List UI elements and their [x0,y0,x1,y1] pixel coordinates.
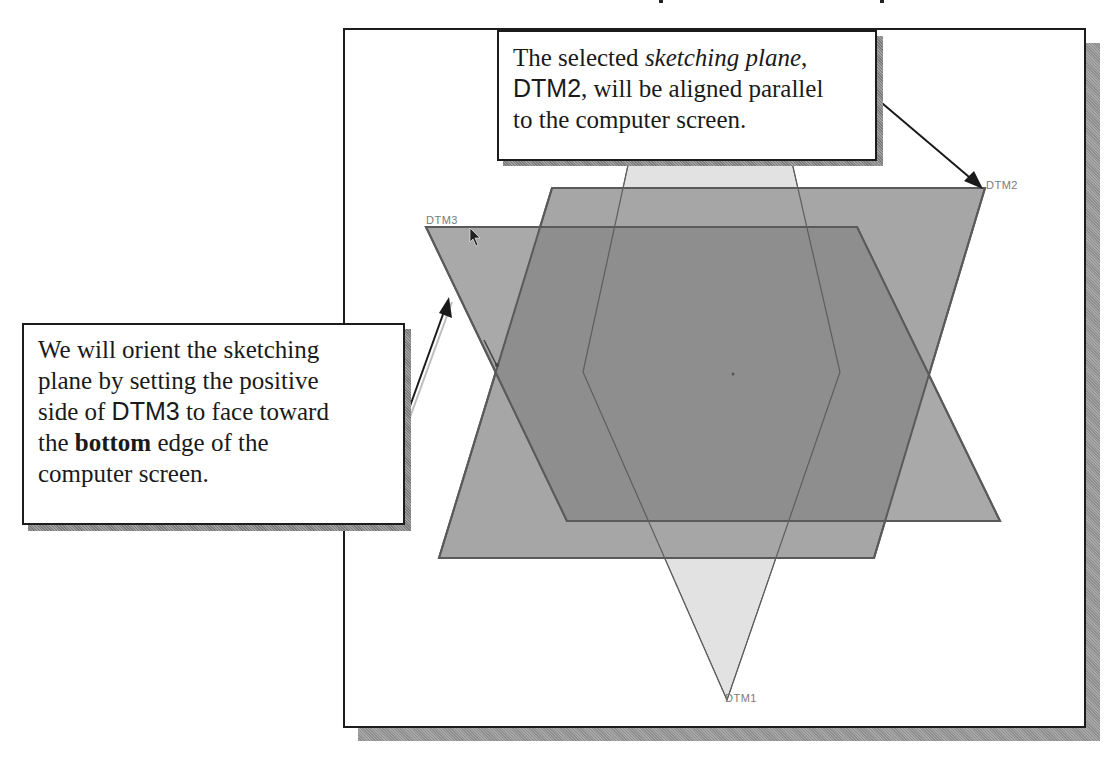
origin-point [732,373,735,376]
label-dtm2: DTM2 [986,179,1018,191]
label-dtm3: DTM3 [426,214,458,226]
left-callout-line-1: We will orient the sketching [38,334,403,365]
top-callout-line-2: DTM2, will be aligned parallel [513,73,875,104]
left-callout-line-2: plane by setting the positive [38,365,403,396]
left-callout-line-4: the bottom edge of the [38,427,403,458]
top-callout-line-3: to the computer screen. [513,104,875,135]
callout-arrow-dtm3 [405,306,446,420]
label-dtm1: DTM1 [725,692,757,704]
top-callout: The selected sketching plane, DTM2, will… [497,30,877,161]
left-callout-line-3: side of DTM3 to face toward [38,396,403,427]
left-callout-line-5: computer screen. [38,458,403,489]
callout-arrow-dtm2 [876,98,975,182]
left-callout: We will orient the sketching plane by se… [22,323,405,525]
top-callout-line-1: The selected sketching plane, [513,42,875,73]
